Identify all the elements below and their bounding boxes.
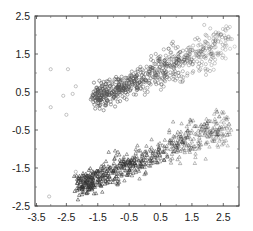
y-tick-label: -2.5 (12, 200, 30, 212)
x-tick-label: -2.5 (57, 211, 75, 223)
plot-frame (35, 16, 239, 206)
scatter-chart: -3.5-2.5-1.5-0.50.51.52.5 2.51.50.5-0.5-… (0, 0, 253, 231)
y-tick-label: 0.5 (15, 86, 30, 98)
data-points (48, 23, 237, 201)
x-tick-label: 1.5 (185, 211, 200, 223)
x-tick-label: 2.5 (216, 211, 231, 223)
y-tick-label: -1.5 (12, 162, 30, 174)
x-tick-label: -1.5 (89, 211, 107, 223)
y-tick-label: 2.5 (15, 10, 30, 22)
y-tick-label: -0.5 (12, 124, 30, 136)
x-tick-label: -3.5 (27, 211, 45, 223)
y-tick-label: 1.5 (15, 48, 30, 60)
x-tick-label: -0.5 (120, 211, 138, 223)
x-tick-label: 0.5 (153, 211, 168, 223)
